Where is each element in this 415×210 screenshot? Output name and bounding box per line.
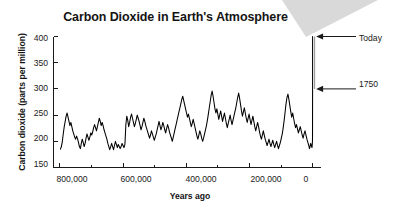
x-tick-label-800000: 800,000 xyxy=(42,174,102,184)
annotation-arrow-today xyxy=(316,33,356,39)
chart-figure: Carbon Dioxide in Earth's Atmosphere Car… xyxy=(0,0,415,210)
annotation-label-today: Today xyxy=(359,33,382,43)
light-wedge-group xyxy=(282,0,378,37)
axis-group xyxy=(54,37,321,168)
x-axis-title: Years ago xyxy=(0,191,380,201)
x-tick-label-0: 0 xyxy=(276,174,336,184)
data-group xyxy=(60,37,314,150)
x-axis-ticks xyxy=(60,163,313,168)
y-axis-ticks xyxy=(54,37,58,168)
data-line-ice-core xyxy=(60,91,312,150)
x-tick-label-400000: 400,000 xyxy=(171,174,231,184)
y-axis-title: Carbon dioxide (parts per million) xyxy=(17,27,27,177)
y-tick-label-350: 350 xyxy=(22,58,48,68)
y-tick-label-150: 150 xyxy=(22,159,48,169)
annotation-arrow-1750 xyxy=(316,86,356,92)
x-tick-label-600000: 600,000 xyxy=(106,174,166,184)
annotation-label-1750: 1750 xyxy=(359,79,378,89)
y-tick-label-200: 200 xyxy=(22,133,48,143)
y-tick-label-300: 300 xyxy=(22,83,48,93)
annotation-group xyxy=(316,33,356,92)
y-tick-label-400: 400 xyxy=(22,33,48,43)
y-tick-label-250: 250 xyxy=(22,108,48,118)
axis-lines xyxy=(54,37,321,168)
light-wedge-shape xyxy=(282,0,378,37)
